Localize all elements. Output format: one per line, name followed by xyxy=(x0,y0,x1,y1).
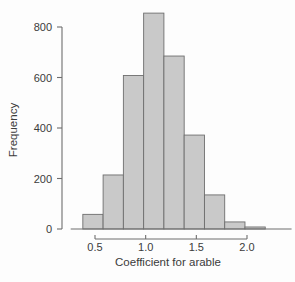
bar-series xyxy=(83,13,265,229)
histogram-bar xyxy=(144,13,164,229)
histogram-bar xyxy=(225,222,245,229)
histogram-figure: 0.51.01.52.0 0200400600800 Coefficient f… xyxy=(0,0,295,282)
x-axis-ticks: 0.51.01.52.0 xyxy=(87,235,254,253)
y-tick-label: 200 xyxy=(34,173,52,185)
histogram-bar xyxy=(103,175,123,229)
y-tick-label: 0 xyxy=(46,223,52,235)
histogram-plot: 0.51.01.52.0 0200400600800 Coefficient f… xyxy=(0,0,295,282)
histogram-bar xyxy=(123,75,143,229)
y-axis-ticks: 0200400600800 xyxy=(34,21,62,235)
histogram-bar xyxy=(204,195,224,229)
x-tick-label: 1.0 xyxy=(138,241,153,253)
y-tick-label: 800 xyxy=(34,21,52,33)
histogram-bar xyxy=(164,56,184,229)
x-tick-label: 2.0 xyxy=(239,241,254,253)
x-tick-label: 0.5 xyxy=(87,241,102,253)
y-tick-label: 600 xyxy=(34,72,52,84)
x-tick-label: 1.5 xyxy=(189,241,204,253)
y-tick-label: 400 xyxy=(34,122,52,134)
y-axis-label: Frequency xyxy=(7,103,19,158)
histogram-bar xyxy=(184,135,204,229)
x-axis-label: Coefficient for arable xyxy=(115,256,221,268)
histogram-bar xyxy=(83,214,103,229)
